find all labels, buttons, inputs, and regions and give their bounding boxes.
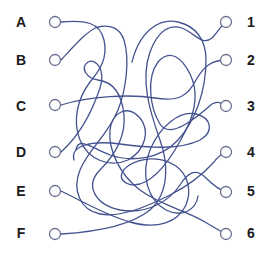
node-right-2[interactable]: [221, 55, 232, 66]
node-right-5[interactable]: [221, 187, 232, 198]
wire-tangle-1: [76, 21, 206, 158]
node-left-d[interactable]: [50, 147, 61, 158]
wire-a: [61, 21, 226, 234]
node-left-a[interactable]: [50, 17, 61, 28]
tangled-lines-puzzle: A B C D E F 1 2 3 4 5 6: [0, 0, 268, 259]
node-right-1[interactable]: [221, 17, 232, 28]
node-left-c[interactable]: [50, 100, 61, 111]
node-left-b[interactable]: [50, 55, 61, 66]
wire-f: [61, 22, 226, 234]
wire-d: [61, 61, 226, 211]
node-left-f[interactable]: [50, 229, 61, 240]
node-right-6[interactable]: [221, 229, 232, 240]
wire-e: [61, 55, 226, 225]
wire-layer: [0, 0, 268, 259]
node-right-3[interactable]: [221, 101, 232, 112]
wire-tangle-2: [73, 113, 209, 213]
node-right-4[interactable]: [221, 147, 232, 158]
wire-c: [61, 60, 226, 105]
node-left-e[interactable]: [50, 186, 61, 197]
